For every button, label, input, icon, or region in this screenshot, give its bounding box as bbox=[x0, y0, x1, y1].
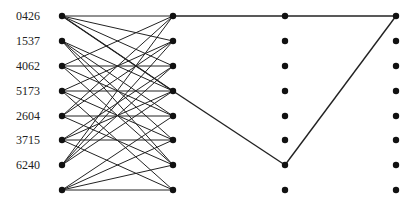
node bbox=[393, 137, 399, 143]
node bbox=[393, 162, 399, 168]
node bbox=[393, 38, 399, 44]
node bbox=[59, 187, 65, 193]
edge bbox=[62, 91, 173, 165]
node bbox=[170, 162, 176, 168]
node bbox=[282, 137, 288, 143]
node bbox=[393, 187, 399, 193]
node bbox=[59, 162, 65, 168]
node bbox=[59, 13, 65, 19]
node bbox=[282, 88, 288, 94]
node bbox=[59, 88, 65, 94]
node bbox=[170, 63, 176, 69]
node bbox=[170, 88, 176, 94]
node bbox=[282, 162, 288, 168]
node bbox=[170, 13, 176, 19]
node bbox=[393, 63, 399, 69]
node bbox=[282, 187, 288, 193]
path-edge bbox=[285, 16, 396, 165]
edge bbox=[62, 165, 173, 190]
node bbox=[282, 38, 288, 44]
node bbox=[170, 187, 176, 193]
node bbox=[393, 113, 399, 119]
node bbox=[59, 38, 65, 44]
node bbox=[393, 13, 399, 19]
node bbox=[59, 63, 65, 69]
node bbox=[59, 113, 65, 119]
node bbox=[59, 137, 65, 143]
node bbox=[170, 113, 176, 119]
edge bbox=[62, 116, 173, 190]
node bbox=[282, 113, 288, 119]
graph-diagram bbox=[0, 0, 419, 205]
path-edge bbox=[173, 91, 285, 165]
node bbox=[282, 13, 288, 19]
path-edge bbox=[62, 16, 173, 91]
edge bbox=[62, 16, 173, 41]
node bbox=[282, 63, 288, 69]
node bbox=[393, 88, 399, 94]
node bbox=[170, 137, 176, 143]
node bbox=[170, 38, 176, 44]
